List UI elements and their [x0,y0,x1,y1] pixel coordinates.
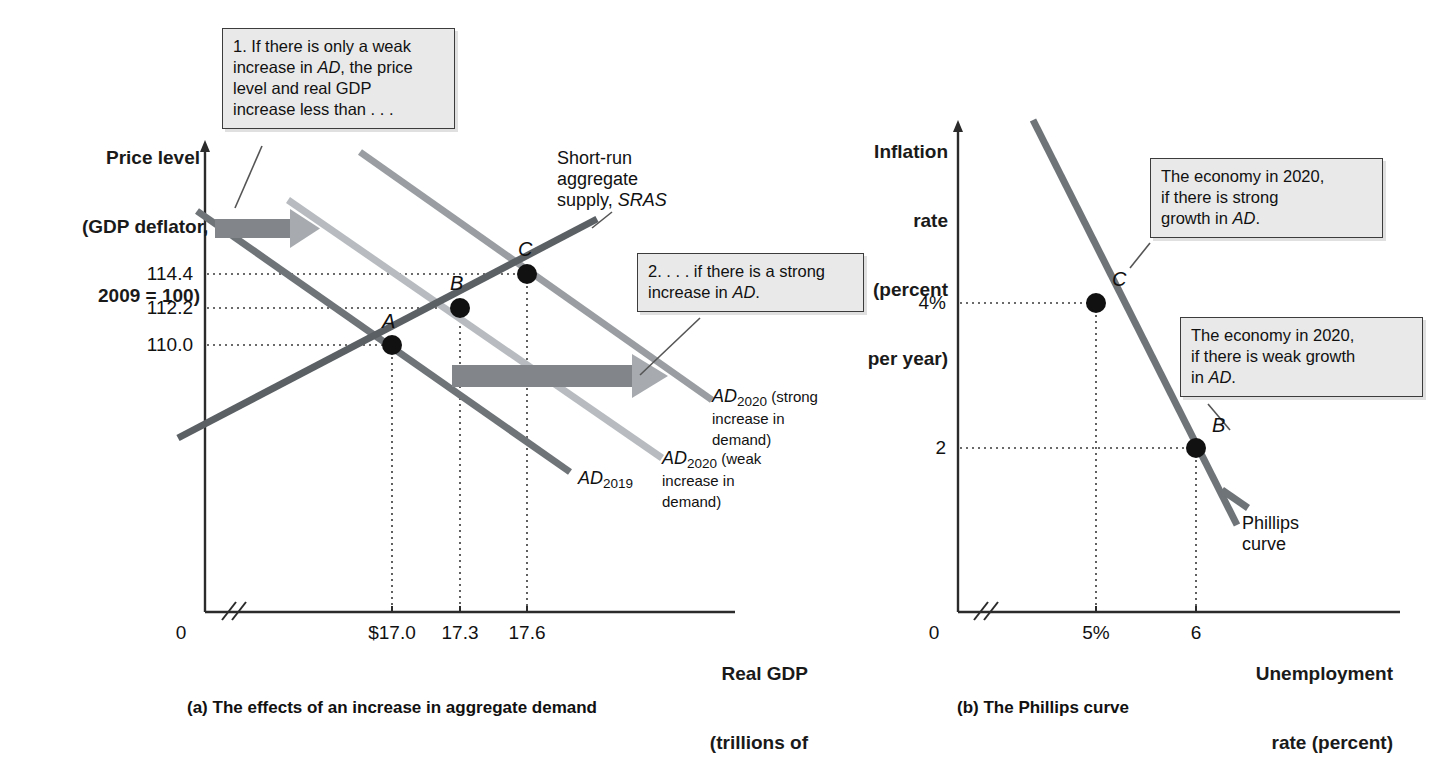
curve-label-phillips: Phillips curve [1242,513,1352,555]
point-c [517,264,537,284]
callout-strong-growth: The economy in 2020, if there is strong … [1150,158,1383,238]
leader-line-callout-1 [235,146,262,208]
leader-line-callout-strong [1130,243,1150,268]
panel-a-guides [207,274,527,608]
point-b [450,298,470,318]
panel-b-y-tick-2: 2 [880,437,946,459]
point-b-panel-b [1186,438,1206,458]
curve-label-sras: Short-run aggregate supply, SRAS [557,148,757,211]
panel-b-y-axis-arrow [953,120,963,132]
panel-b-y-axis-title: Inflation rate (percent per year) [838,94,948,416]
panel-a-y-axis-arrow [200,140,210,152]
point-a [382,335,402,355]
panel-b-origin-label: 0 [916,622,952,644]
panel-b-caption: (b) The Phillips curve [957,698,1129,718]
panel-a-caption: (a) The effects of an increase in aggreg… [187,698,597,718]
panel-a-origin-label: 0 [163,622,199,644]
panel-b-guides [960,303,1196,608]
panel-a-x-axis-title: Real GDP (trillions of 2009 dollars) [618,616,808,757]
point-label-c-panel-b: C [1112,268,1126,291]
point-label-b-panel-b: B [1212,414,1225,437]
panel-a-y-tick-114: 114.4 [108,263,193,285]
panel-b-y-tick-4: 4% [880,292,946,314]
point-label-b: B [450,272,463,295]
point-c-panel-b [1086,293,1106,313]
figure-root: Price level (GDP deflator, 2009 = 100) 1… [0,0,1446,757]
point-label-a: A [382,310,395,333]
curve-label-ad-2019: AD2019 [578,468,633,490]
callout-weak-increase: 1. If there is only a weak increase in A… [222,28,455,129]
point-label-c: C [518,238,532,261]
panel-a-x-tick-17-6: 17.6 [487,622,567,644]
panel-b-x-axis-title: Unemployment rate (percent) [1218,616,1393,757]
curve-label-ad-2020-weak: AD2020 (weak increase in demand) [662,448,802,512]
callout-strong-increase: 2. . . . if there is a strong increase i… [637,253,864,312]
panel-a-y-tick-110: 110.0 [108,334,193,356]
callout-weak-growth: The economy in 2020, if there is weak gr… [1180,317,1423,397]
panel-b-x-tick-5: 5% [1056,622,1136,644]
panel-a-y-tick-112: 112.2 [108,297,193,319]
